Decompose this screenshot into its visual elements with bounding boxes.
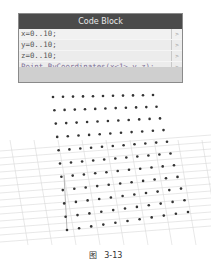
caption-label: 图 xyxy=(89,251,97,260)
point-grid-illustration xyxy=(0,85,211,245)
code-line[interactable]: y=0..10; > xyxy=(19,40,182,51)
code-text: x=0..10; xyxy=(21,29,57,38)
output-port-icon[interactable]: > xyxy=(171,51,182,61)
code-line[interactable]: x=0..10; > xyxy=(19,29,182,40)
code-line[interactable]: z=0..10; > xyxy=(19,51,182,62)
caption-number: 3-13 xyxy=(104,251,122,260)
code-text: z=0..10; xyxy=(21,51,57,60)
output-port-icon[interactable]: > xyxy=(171,29,182,39)
figure-caption: 图 3-13 xyxy=(0,249,211,260)
node-title: Code Block xyxy=(19,14,182,29)
code-block-node[interactable]: Code Block x=0..10; > y=0..10; > z=0..10… xyxy=(18,13,183,83)
3d-preview-viewport[interactable] xyxy=(0,85,211,245)
code-text: y=0..10; xyxy=(21,40,57,49)
output-port-icon[interactable]: > xyxy=(171,40,182,50)
node-footer xyxy=(19,67,182,82)
